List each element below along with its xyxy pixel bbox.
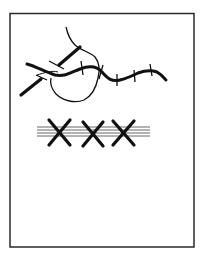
railway-ties: [81, 61, 152, 86]
road-segment-lower: [21, 79, 41, 95]
road-segment-upper: [59, 47, 80, 65]
sketch-map: [0, 0, 200, 258]
x-mark-2: [83, 122, 103, 146]
